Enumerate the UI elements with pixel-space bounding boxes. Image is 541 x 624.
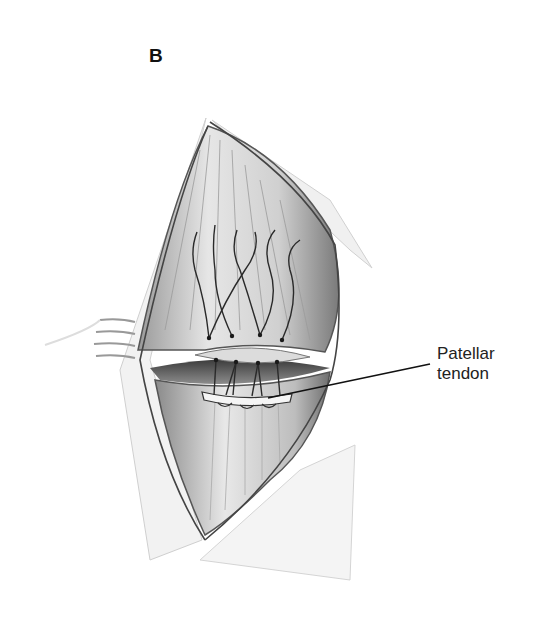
quadriceps-tissue <box>138 126 339 352</box>
surgical-illustration <box>0 0 541 624</box>
callout-line-1: Patellar <box>437 344 495 364</box>
callout-line-2: tendon <box>437 364 495 384</box>
callout-patellar-tendon: Patellar tendon <box>437 344 495 384</box>
retractor <box>45 319 135 358</box>
